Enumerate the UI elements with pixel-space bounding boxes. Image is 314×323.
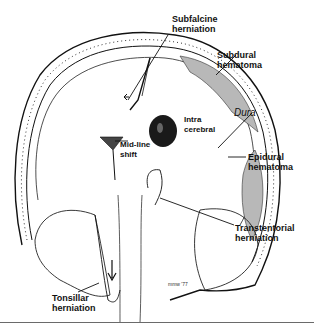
label-intracerebral: Intra cerebral (184, 115, 215, 135)
label-subdural-hematoma: Subdural hematoma (217, 50, 262, 70)
label-transtentorial-herniation: Transtentorial herniation (235, 223, 295, 243)
brain-herniation-diagram: mmw '77 Subfalcine herniation Subdural h… (0, 0, 314, 323)
label-epidural-hematoma: Epidural hematoma (248, 152, 293, 172)
label-midline-shift: Mid-line shift (120, 140, 150, 160)
label-tonsillar-herniation: Tonsillar herniation (52, 293, 96, 313)
artist-signature: mmw '77 (168, 281, 188, 287)
label-subfalcine-herniation: Subfalcine herniation (172, 14, 218, 34)
label-dura: Dura (234, 108, 256, 118)
